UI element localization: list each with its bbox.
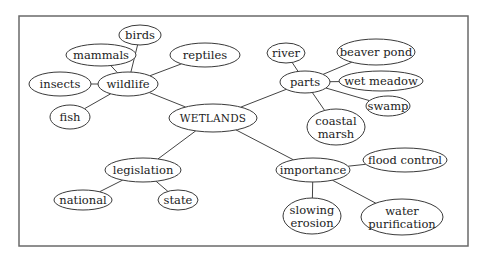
node-state: state [158,190,198,210]
node-wet-meadow: wet meadow [339,71,423,91]
wetlands-concept-map: WETLANDSwildlifebirdsmammalsreptilesinse… [0,0,485,264]
node-swamp: swamp [366,96,410,116]
node-beaver-pond: beaver pond [337,39,415,65]
node-label: national [59,193,107,207]
node-label: purification [368,217,436,231]
node-label: swamp [368,99,409,113]
node-parts: parts [280,71,330,93]
node-mammals: mammals [66,44,136,66]
node-label: slowing [290,203,335,217]
node-label: legislation [113,163,174,177]
node-wildlife: wildlife [98,72,158,96]
node-label: flood control [368,153,442,167]
node-water-purification: waterpurification [361,199,443,235]
node-label: mammals [73,48,129,62]
node-label: birds [125,28,155,42]
node-reptiles: reptiles [170,43,240,67]
node-label: coastal [315,114,357,128]
node-insects: insects [29,72,91,96]
node-label: water [385,204,419,218]
node-label: insects [40,77,81,91]
node-label: wildlife [107,77,150,91]
node-wetlands: WETLANDS [169,104,257,132]
node-label: WETLANDS [180,112,246,124]
node-label: importance [280,163,347,177]
node-label: marsh [318,127,355,141]
node-label: beaver pond [340,45,413,59]
node-slowing-erosion: slowingerosion [283,198,341,234]
node-label: state [164,193,193,207]
node-national: national [54,190,112,210]
node-label: erosion [290,216,334,230]
node-label: reptiles [183,48,227,62]
node-label: wet meadow [344,74,418,88]
node-label: fish [60,110,82,124]
node-label: river [272,46,300,60]
node-river: river [267,43,305,63]
node-birds: birds [119,25,161,45]
node-importance: importance [276,158,350,182]
node-legislation: legislation [105,158,181,182]
node-fish: fish [50,105,90,129]
node-flood-control: flood control [363,148,447,172]
node-label: parts [290,75,320,89]
node-coastal-marsh: coastalmarsh [307,109,365,145]
